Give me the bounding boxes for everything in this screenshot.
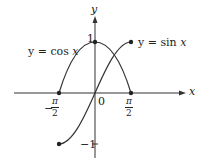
- sin-point-top: [129, 40, 133, 44]
- cos-legend-label: y = cos x: [28, 46, 79, 57]
- chart: y x 1 −1 0 − π 2 π 2 y = cos x y = sin x: [0, 0, 204, 168]
- x-tick-label-pi-half: π 2: [125, 97, 133, 118]
- plot-area: [0, 0, 204, 168]
- x-tick-label-neg-pi-half: π 2: [51, 97, 59, 118]
- sin-legend-label: y = sin x: [138, 37, 186, 48]
- y-axis-arrow-icon: [93, 16, 98, 23]
- cos-point-right: [129, 91, 133, 95]
- sin-point-bottom: [57, 142, 61, 146]
- x-axis-arrow-icon: [179, 91, 186, 96]
- origin-label: 0: [98, 96, 105, 107]
- y-axis-label: y: [91, 4, 97, 15]
- y-tick-label-one: 1: [87, 33, 94, 44]
- cos-point-left: [57, 91, 61, 95]
- x-axis-label: x: [189, 86, 195, 97]
- y-tick-label-neg-one: −1: [80, 139, 96, 150]
